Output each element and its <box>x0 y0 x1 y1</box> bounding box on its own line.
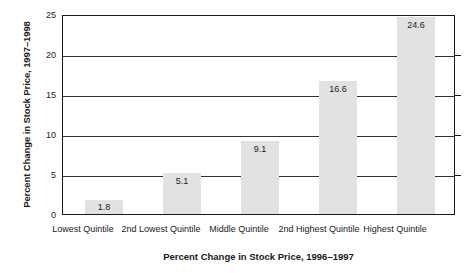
gridline-20 <box>63 56 454 57</box>
x-tick-label-2nd-highest-quintile: 2nd Highest Quintile <box>274 224 364 234</box>
y-tick-label: 10 <box>36 130 56 140</box>
bar-value-label: 24.6 <box>397 20 435 30</box>
y-axis-tick-mark-right <box>455 175 461 176</box>
y-tick-label: 5 <box>36 170 56 180</box>
y-axis-title: Percent Change in Stock Price, 1997–1998 <box>18 7 36 222</box>
bar-2nd-highest-quintile[interactable]: 16.6 <box>319 81 357 214</box>
plot-area: 1.8 5.1 9.1 16.6 24.6 <box>62 15 455 215</box>
bar-middle-quintile[interactable]: 9.1 <box>241 141 279 214</box>
y-axis-tick-mark-right <box>455 135 461 136</box>
x-tick-label-lowest-quintile: Lowest Quintile <box>43 224 123 234</box>
x-tick-label-highest-quintile: Highest Quintile <box>355 224 435 234</box>
x-tick-label-2nd-lowest-quintile: 2nd Lowest Quintile <box>121 224 201 234</box>
bar-value-label: 5.1 <box>163 176 201 186</box>
y-axis-tick-mark-right <box>455 55 461 56</box>
bar-chart-figure: Percent Change in Stock Price, 1997–1998… <box>0 0 466 273</box>
bar-value-label: 9.1 <box>241 144 279 154</box>
y-axis-tick-mark-right <box>455 95 461 96</box>
bar-2nd-lowest-quintile[interactable]: 5.1 <box>163 173 201 214</box>
bar-value-label: 16.6 <box>319 84 357 94</box>
bar-highest-quintile[interactable]: 24.6 <box>397 17 435 214</box>
bar-lowest-quintile[interactable]: 1.8 <box>85 200 123 214</box>
x-tick-label-middle-quintile: Middle Quintile <box>199 224 279 234</box>
gridline-10 <box>63 136 454 137</box>
y-tick-label: 15 <box>36 90 56 100</box>
plot-inner: 1.8 5.1 9.1 16.6 24.6 <box>63 16 454 214</box>
bar-value-label: 1.8 <box>85 202 123 212</box>
gridline-15 <box>63 96 454 97</box>
y-tick-label: 20 <box>36 50 56 60</box>
y-tick-label: 0 <box>36 210 56 220</box>
x-axis-title: Percent Change in Stock Price, 1996–1997 <box>62 251 455 262</box>
y-tick-label: 25 <box>36 10 56 20</box>
